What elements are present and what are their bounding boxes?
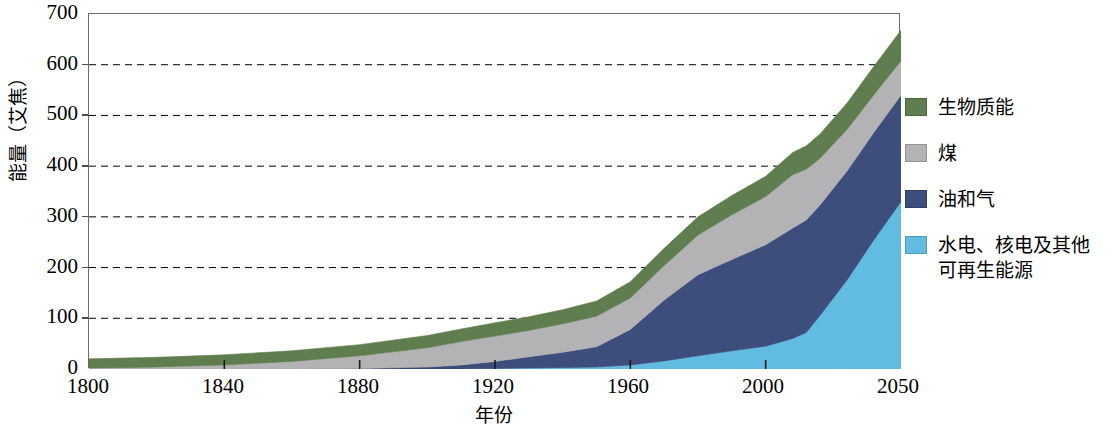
- x-tick-label-1880: 1880: [313, 374, 403, 398]
- stacked-area-svg: [89, 14, 901, 369]
- legend-swatch-icon: [905, 98, 927, 116]
- chart-legend: 生物质能煤油和气水电、核电及其他 可再生能源: [905, 95, 1110, 304]
- y-tick-label-600: 600: [8, 53, 78, 74]
- legend-item-label: 水电、核电及其他 可再生能源: [938, 233, 1090, 283]
- legend-item[interactable]: 油和气: [905, 187, 1110, 212]
- chart-figure: 能量（艾焦） 0 100 200 300 400 500 600 700 180…: [0, 0, 1113, 426]
- legend-swatch-icon: [905, 236, 927, 254]
- x-tick-label-1800: 1800: [43, 374, 133, 398]
- legend-item-label: 油和气: [938, 187, 995, 212]
- legend-item[interactable]: 水电、核电及其他 可再生能源: [905, 233, 1110, 283]
- y-tick-label-100: 100: [8, 306, 78, 327]
- legend-item[interactable]: 生物质能: [905, 95, 1110, 120]
- legend-item-label: 煤: [938, 141, 957, 166]
- y-axis-tick-labels: 0 100 200 300 400 500 600 700: [0, 0, 78, 426]
- legend-item[interactable]: 煤: [905, 141, 1110, 166]
- y-tick-label-400: 400: [8, 154, 78, 175]
- y-tick-label-500: 500: [8, 103, 78, 124]
- legend-swatch-icon: [905, 190, 927, 208]
- x-tick-label-2050: 2050: [853, 374, 943, 398]
- legend-item-label: 生物质能: [938, 95, 1014, 120]
- plot-area: [88, 13, 900, 368]
- x-tick-label-2000: 2000: [718, 374, 808, 398]
- legend-swatch-icon: [905, 144, 927, 162]
- x-tick-label-1920: 1920: [448, 374, 538, 398]
- y-tick-label-700: 700: [8, 2, 78, 23]
- x-tick-label-1960: 1960: [583, 374, 673, 398]
- x-axis-title: 年份: [0, 400, 988, 426]
- y-tick-label-300: 300: [8, 205, 78, 226]
- x-tick-label-1840: 1840: [178, 374, 268, 398]
- y-tick-label-200: 200: [8, 256, 78, 277]
